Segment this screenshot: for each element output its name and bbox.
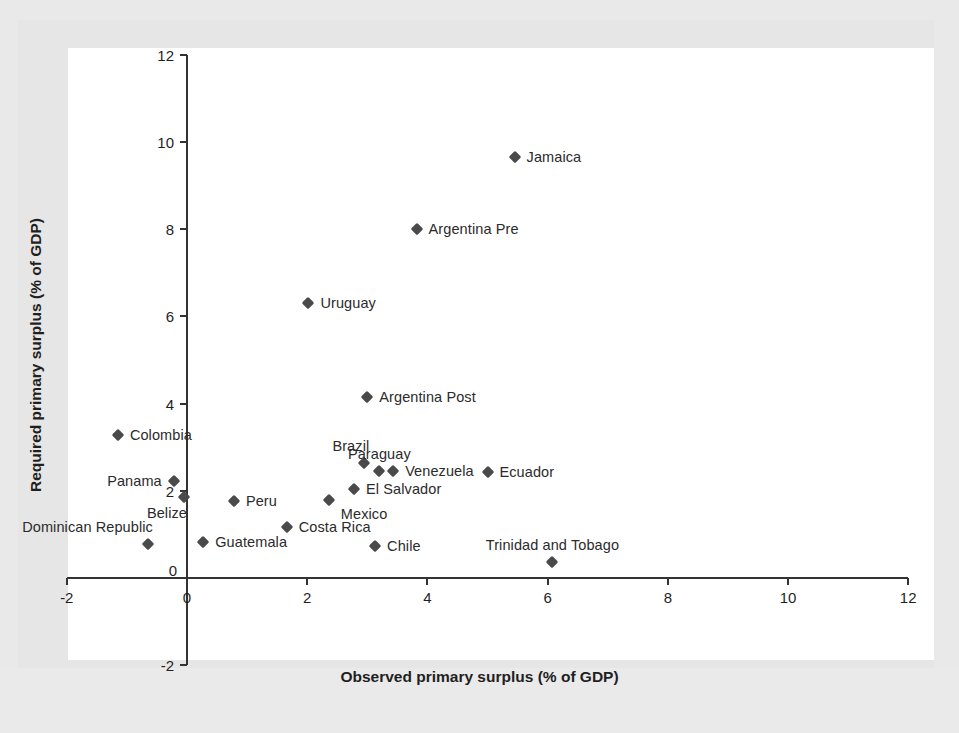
y-axis-tick (180, 664, 187, 666)
data-point-label: Argentina Pre (429, 221, 519, 237)
y-axis-tick (180, 403, 187, 405)
data-point[interactable] (546, 555, 559, 568)
data-point-label: Argentina Post (379, 389, 476, 405)
y-axis-tick (180, 141, 187, 143)
data-point[interactable] (361, 391, 374, 404)
x-axis-tick-label: 12 (900, 589, 917, 606)
x-axis-tick (547, 578, 549, 585)
y-axis-tick-label: 6 (166, 308, 174, 325)
x-axis-tick (426, 578, 428, 585)
x-axis-tick (907, 578, 909, 585)
data-point-label: Colombia (130, 427, 192, 443)
scatter-plot-canvas: -2024681012-2246810120JamaicaArgentina P… (0, 0, 959, 733)
y-axis-title: Required primary surplus (% of GDP) (27, 218, 45, 492)
data-point[interactable] (348, 482, 361, 495)
y-axis-tick (180, 228, 187, 230)
y-axis-line (186, 55, 188, 665)
data-point[interactable] (322, 493, 335, 506)
x-axis-tick (66, 578, 68, 585)
data-point[interactable] (387, 464, 400, 477)
data-point-label: Panama (107, 473, 162, 489)
x-axis-tick-label: 8 (664, 589, 672, 606)
data-point[interactable] (112, 429, 125, 442)
data-point-label: Ecuador (500, 464, 555, 480)
data-point-label: Paraguay (348, 446, 411, 462)
x-axis-title: Observed primary surplus (% of GDP) (0, 668, 959, 686)
data-point-label: Uruguay (320, 295, 376, 311)
data-point[interactable] (302, 297, 315, 310)
data-point[interactable] (142, 538, 155, 551)
x-axis-tick (186, 578, 188, 585)
x-axis-tick-label: -2 (60, 589, 73, 606)
x-axis-tick (667, 578, 669, 585)
x-axis-tick-label: 2 (303, 589, 311, 606)
data-point[interactable] (508, 151, 521, 164)
x-axis-tick-label: 6 (543, 589, 551, 606)
data-point[interactable] (410, 223, 423, 236)
data-point[interactable] (228, 494, 241, 507)
x-axis-tick-label: 4 (423, 589, 431, 606)
x-axis-tick (787, 578, 789, 585)
data-point-label: Jamaica (527, 149, 582, 165)
y-axis-tick (180, 54, 187, 56)
y-axis-tick-label: 0 (169, 562, 177, 579)
y-axis-tick (180, 315, 187, 317)
data-point-label: Guatemala (215, 534, 287, 550)
y-axis-tick-label: 8 (166, 221, 174, 238)
x-axis-line (67, 577, 908, 579)
y-axis-tick-label: 4 (166, 395, 174, 412)
data-point[interactable] (481, 465, 494, 478)
data-point-label: Dominican Republic (22, 519, 153, 535)
data-point-label: Chile (387, 538, 421, 554)
data-point[interactable] (373, 464, 386, 477)
y-axis-tick-label: 12 (157, 46, 174, 63)
data-point[interactable] (197, 535, 210, 548)
data-point-label: El Salvador (366, 481, 441, 497)
data-point-label: Trinidad and Tobago (486, 537, 619, 553)
data-point[interactable] (280, 520, 293, 533)
figure-container: -2024681012-2246810120JamaicaArgentina P… (0, 0, 959, 733)
x-axis-tick-label: 10 (780, 589, 797, 606)
data-point-label: Peru (246, 493, 277, 509)
x-axis-tick-label: 0 (183, 589, 191, 606)
data-point-label: Venezuela (405, 463, 474, 479)
y-axis-tick-label: 10 (157, 134, 174, 151)
data-point-label: Costa Rica (299, 519, 371, 535)
x-axis-tick (306, 578, 308, 585)
data-point[interactable] (178, 491, 191, 504)
data-point[interactable] (369, 540, 382, 553)
